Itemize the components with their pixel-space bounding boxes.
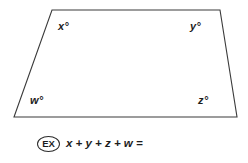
angle-label-z: z°	[198, 95, 208, 106]
example-prompt-row: EX x + y + z + w =	[0, 131, 248, 157]
angle-label-y: y°	[190, 21, 201, 32]
quadrilateral-svg	[0, 0, 248, 128]
badge-label: EX	[42, 139, 54, 149]
angle-label-x: x°	[58, 21, 69, 32]
angle-sum-equation: x + y + z + w =	[66, 138, 143, 150]
quadrilateral-figure: x° y° w° z°	[0, 0, 248, 128]
angle-label-w: w°	[30, 95, 43, 106]
example-badge: EX	[37, 136, 60, 152]
geometry-problem-figure: x° y° w° z° EX x + y + z + w =	[0, 0, 248, 163]
